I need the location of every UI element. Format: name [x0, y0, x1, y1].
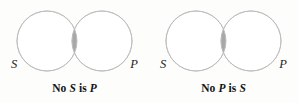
caption-copula: is [229, 82, 237, 94]
subject-term-label: S [11, 58, 17, 71]
caption-first-term: S [69, 82, 75, 94]
diagram-no-p-is-s: S P NoPisS [149, 0, 298, 103]
caption-second-term: P [90, 82, 97, 94]
predicate-term-label: P [279, 58, 287, 71]
diagram-no-s-is-p: S P NoSisP [0, 0, 149, 103]
predicate-term-label: P [130, 58, 138, 71]
caption-copula: is [79, 82, 87, 94]
diagram-caption: NoPisS [149, 82, 298, 95]
venn-diagram-figure: S P NoSisP S P NoPisS [0, 0, 298, 103]
venn-svg-left [0, 0, 149, 78]
caption-prefix: No [52, 82, 66, 94]
caption-second-term: S [239, 82, 245, 94]
caption-first-term: P [218, 82, 225, 94]
diagram-caption: NoSisP [0, 82, 149, 95]
subject-term-label: S [160, 58, 166, 71]
caption-prefix: No [201, 82, 215, 94]
venn-svg-right [149, 0, 298, 78]
